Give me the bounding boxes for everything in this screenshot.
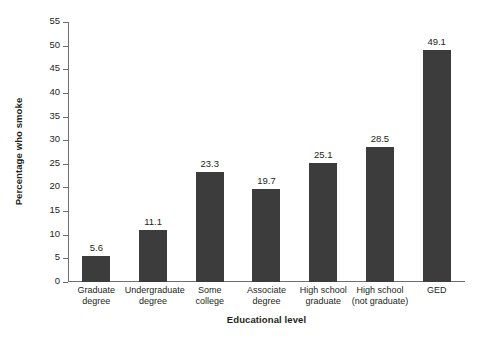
bar-value-label: 28.5 [371,133,390,144]
bar-group: 23.3 [181,22,238,282]
x-category-label-line: degree [68,296,125,307]
y-axis-title: Percentage who smoke [13,52,24,252]
bar-value-label: 5.6 [90,242,103,253]
bar [423,50,451,282]
bar-value-label: 11.1 [144,216,162,227]
bar [252,189,280,282]
x-category-label-line: High school [295,285,352,296]
x-category-label: Undergraduatedegree [125,285,182,307]
x-category-label-line: High school [352,285,409,296]
y-tick-label: 50 [30,39,60,50]
x-category-label: Associatedegree [238,285,295,307]
y-tick-label: 35 [30,110,60,121]
y-tick-label: 25 [30,157,60,168]
bar-group: 28.5 [352,22,409,282]
y-tick-label: 0 [30,275,60,286]
bar [366,147,394,282]
x-category-label-line: graduate [295,296,352,307]
bar-group: 5.6 [68,22,125,282]
y-tick-label: 15 [30,204,60,215]
y-tick: 0 [63,282,68,283]
bar-value-label: 25.1 [314,149,333,160]
bars-layer: 5.611.123.319.725.128.549.1 [68,22,465,282]
bar-value-label: 23.3 [201,158,220,169]
x-category-label-line: Graduate [68,285,125,296]
bar [196,172,224,282]
bar-group: 19.7 [238,22,295,282]
y-tick-label: 40 [30,86,60,97]
bar-group: 49.1 [408,22,465,282]
bar-value-label: 19.7 [257,175,276,186]
x-category-label-line: (not graduate) [352,296,409,307]
y-tick-label: 45 [30,62,60,73]
x-category-label: Graduatedegree [68,285,125,307]
bar-group: 11.1 [125,22,182,282]
x-category-label: High school(not graduate) [352,285,409,307]
x-category-label-line: Associate [238,285,295,296]
x-category-label-line: Some [181,285,238,296]
y-tick-label: 5 [30,251,60,262]
x-category-label-line: college [181,296,238,307]
y-tick-label: 20 [30,180,60,191]
y-tick-label: 10 [30,228,60,239]
y-tick-label: 55 [30,15,60,26]
x-category-label-line: GED [408,285,465,296]
x-category-label: Somecollege [181,285,238,307]
bar [139,230,167,282]
bar [309,163,337,282]
x-category-label: GED [408,285,465,296]
x-category-label-line: degree [238,296,295,307]
y-tick-label: 30 [30,133,60,144]
x-category-label-line: Undergraduate [125,285,182,296]
bar-value-label: 49.1 [427,36,446,47]
x-axis-title: Educational level [68,314,465,325]
bar-group: 25.1 [295,22,352,282]
x-category-label: High schoolgraduate [295,285,352,307]
bar-chart: Percentage who smoke 0510152025303540455… [0,0,479,338]
x-category-label-line: degree [125,296,182,307]
bar [82,256,110,282]
plot-area: 0510152025303540455055 5.611.123.319.725… [68,22,465,282]
